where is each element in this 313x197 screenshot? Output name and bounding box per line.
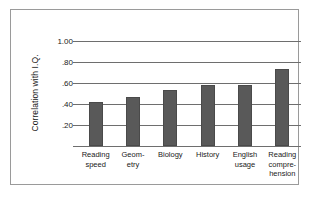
y-axis-tick-label: .40 [62, 100, 73, 109]
x-axis-tick-label: Biology [152, 150, 189, 160]
x-axis-tick-label: History [189, 150, 226, 160]
x-axis-tick-label: English usage [226, 150, 263, 169]
y-axis-tick-label: .80 [62, 58, 73, 67]
x-axis-tick-label: Geom- etry [114, 150, 151, 169]
x-axis-tick-label: Reading compre- hension [264, 150, 301, 179]
y-axis-tick-label: .60 [62, 79, 73, 88]
y-axis-tick-label: .20 [62, 121, 73, 130]
gridline [77, 104, 301, 105]
x-axis-tick-label: Reading speed [77, 150, 114, 169]
y-axis-title: Correlation with I.Q. [30, 38, 40, 148]
bar [126, 97, 140, 146]
figure-frame: Correlation with I.Q. 1.00.80.60.40.20 R… [10, 9, 299, 185]
x-axis-line [77, 146, 301, 147]
plot-area: 1.00.80.60.40.20 Reading speedGeom- etry… [77, 41, 301, 146]
y-axis-tick-mark [73, 62, 77, 63]
bar [238, 85, 252, 146]
y-axis-tick-mark [73, 83, 77, 84]
gridline [77, 125, 301, 126]
bar [201, 85, 215, 146]
y-axis-tick-mark [73, 41, 77, 42]
bar [275, 69, 289, 146]
gridline [77, 83, 301, 84]
gridline [77, 62, 301, 63]
bar [163, 90, 177, 146]
y-axis-tick-mark [73, 104, 77, 105]
y-axis-tick-label: 1.00 [57, 37, 73, 46]
y-axis-tick-mark [73, 125, 77, 126]
chart-figure: Correlation with I.Q. 1.00.80.60.40.20 R… [0, 0, 313, 197]
gridline [77, 41, 301, 42]
bar [89, 102, 103, 146]
